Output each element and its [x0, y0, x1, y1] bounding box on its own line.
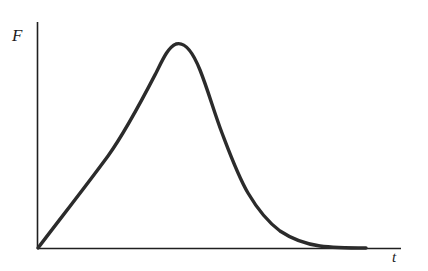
axes-group [37, 22, 401, 249]
plot-canvas [0, 0, 428, 271]
force-impulse-curve [38, 44, 366, 248]
force-time-graph-figure: F t [0, 0, 428, 271]
y-axis-label: F [12, 27, 22, 44]
data-series-group [38, 44, 366, 248]
x-axis-label: t [392, 250, 396, 265]
